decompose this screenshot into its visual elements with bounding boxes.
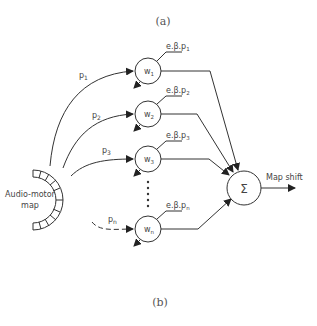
weight-update-arrow-w3 xyxy=(134,170,140,176)
sum-input-arrow-wn xyxy=(198,199,231,229)
sum-input-arrow-w1 xyxy=(210,71,238,170)
input-arrow-p2 xyxy=(63,114,133,168)
audio-motor-map-label-line1: Audio-motor xyxy=(5,190,55,199)
audio-motor-map-shape xyxy=(33,170,63,230)
weight-update-arrow-wn xyxy=(134,240,140,246)
neural-diagram: Audio-motor map p1 p2 p3 pn w1 e.β.p1 w2… xyxy=(0,0,317,326)
ellipsis-dots xyxy=(147,181,149,207)
input-label-p2: p2 xyxy=(92,111,101,121)
output-label-map-shift: Map shift xyxy=(266,173,303,182)
update-label-w1: e.β.p1 xyxy=(166,42,190,52)
update-label-wn: e.β.pn xyxy=(166,201,190,211)
input-arrow-p3 xyxy=(71,159,133,176)
sum-node: Σ xyxy=(227,171,261,205)
update-label-w2: e.β.p2 xyxy=(166,86,190,96)
weight-update-arrow-w1 xyxy=(134,82,140,88)
audio-motor-map-label-line2: map xyxy=(21,201,39,210)
weight-node-w3: w3 xyxy=(134,141,229,176)
input-label-pn: pn xyxy=(108,215,117,225)
input-label-p1: p1 xyxy=(79,71,88,81)
update-label-w3: e.β.p3 xyxy=(166,131,190,141)
weight-update-arrow-w2 xyxy=(134,125,140,131)
figure-caption-b: (b) xyxy=(140,296,180,309)
input-label-p3: p3 xyxy=(102,146,111,156)
sigma-symbol: Σ xyxy=(240,182,248,196)
